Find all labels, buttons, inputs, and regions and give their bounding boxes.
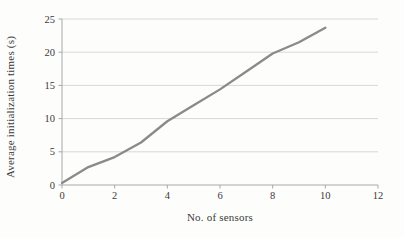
y-tick-label: 25 — [45, 14, 56, 25]
y-tick-label: 15 — [45, 80, 56, 91]
y-tick-label: 0 — [50, 180, 55, 191]
axes — [59, 19, 379, 189]
x-tick-label: 2 — [112, 190, 117, 201]
y-tick-label: 10 — [45, 113, 56, 124]
y-tick-label: 5 — [50, 146, 55, 157]
x-tick-label: 8 — [270, 190, 275, 201]
figure: 0246810120510152025 No. of sensors Avera… — [0, 0, 404, 238]
y-axis-title: Average initialization times (s) — [4, 36, 17, 178]
series-line — [62, 28, 325, 183]
line-chart: 0246810120510152025 No. of sensors Avera… — [0, 0, 404, 238]
data-series — [62, 28, 325, 183]
x-tick-label: 12 — [373, 190, 384, 201]
x-tick-label: 4 — [165, 190, 171, 201]
x-tick-label: 6 — [217, 190, 222, 201]
x-axis-title: No. of sensors — [187, 211, 253, 223]
x-tick-label: 10 — [320, 190, 331, 201]
y-tick-label: 20 — [45, 47, 56, 58]
tick-labels: 0246810120510152025 — [45, 14, 384, 201]
x-tick-label: 0 — [59, 190, 64, 201]
